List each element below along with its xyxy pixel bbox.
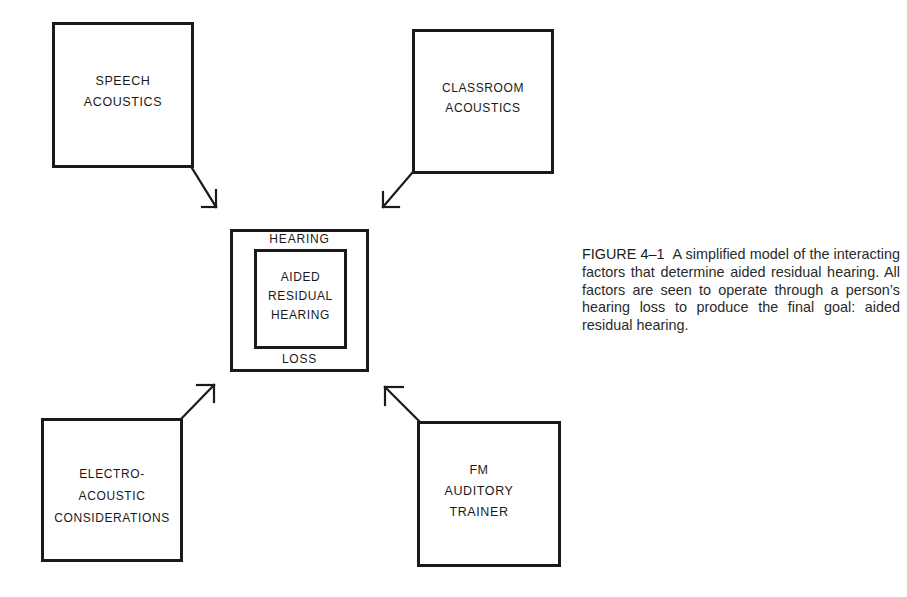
inner-label-line: RESIDUAL (254, 287, 347, 306)
factor-label-line: ACOUSTICS (55, 92, 191, 113)
factor-label-line: CONSIDERATIONS (44, 507, 180, 529)
inner-label-line: HEARING (254, 306, 347, 325)
factor-label: ELECTRO- ACOUSTIC CONSIDERATIONS (44, 463, 180, 529)
arrow-speech-to-center (192, 168, 216, 207)
factor-label-line: AUDITORY (420, 481, 538, 502)
factor-label-line: ACOUSTICS (415, 98, 551, 118)
arrow-classroom-to-center (383, 173, 412, 207)
figure-canvas: SPEECH ACOUSTICS CLASSROOM ACOUSTICS ELE… (0, 0, 907, 597)
factor-label-line: SPEECH (55, 71, 191, 92)
factor-label: SPEECH ACOUSTICS (55, 71, 191, 113)
factor-label-line: ACOUSTIC (44, 485, 180, 507)
inner-label-line: AIDED (254, 268, 347, 287)
aided-residual-hearing-label: AIDED RESIDUAL HEARING (254, 268, 347, 325)
factor-label-line: TRAINER (420, 502, 538, 523)
factor-label-line: ELECTRO- (44, 463, 180, 485)
factor-label-line: FM (420, 460, 538, 481)
figure-label: FIGURE 4–1 (582, 246, 665, 262)
hearing-loss-label-bottom: LOSS (230, 352, 369, 366)
factor-label: FM AUDITORY TRAINER (420, 460, 558, 523)
figure-caption: FIGURE 4–1A simplified model of the inte… (582, 246, 900, 335)
arrow-electro-to-center (182, 385, 214, 418)
factor-box-classroom-acoustics: CLASSROOM ACOUSTICS (412, 29, 554, 174)
factor-box-electroacoustic-considerations: ELECTRO- ACOUSTIC CONSIDERATIONS (41, 418, 183, 562)
factor-box-fm-auditory-trainer: FM AUDITORY TRAINER (417, 421, 561, 567)
factor-label: CLASSROOM ACOUSTICS (415, 78, 551, 118)
arrow-fm-to-center (385, 387, 419, 421)
factor-label-line: CLASSROOM (415, 78, 551, 98)
factor-box-speech-acoustics: SPEECH ACOUSTICS (52, 22, 194, 168)
hearing-loss-label-top: HEARING (230, 232, 369, 246)
